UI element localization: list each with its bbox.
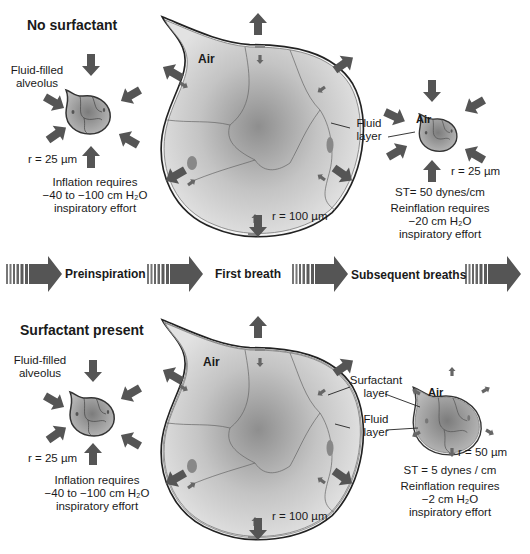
label-line: layer	[346, 387, 406, 400]
req-line: Inflation requires	[30, 176, 160, 189]
label-line: Fluid-filled	[2, 354, 78, 367]
req-line: −20 cm H₂O	[370, 215, 510, 228]
label-line: alveolus	[2, 77, 72, 90]
bottom-small-alveolus	[70, 392, 114, 436]
fluid-layer-label-top: Fluid layer	[351, 117, 387, 143]
radius-label-top-small: r = 25 µm	[28, 153, 77, 166]
top-small-alveolus	[66, 90, 110, 134]
fluid-layer-label-bottom: Fluid layer	[356, 413, 396, 439]
req-line: −40 to −100 cm H₂O	[32, 487, 162, 500]
req-line: −40 to −100 cm H₂O	[30, 189, 160, 202]
label-line: alveolus	[2, 367, 78, 380]
req-line: Inflation requires	[32, 474, 162, 487]
bottom-right-alveolus	[413, 387, 481, 455]
radius-label-bottom-right: r = 50 µm	[458, 446, 507, 459]
panel-title-surfactant-present: Surfactant present	[20, 322, 144, 338]
surface-tension: ST= 50 dynes/cm	[370, 186, 510, 199]
inflation-requirement-top: Inflation requires −40 to −100 cm H₂O in…	[30, 176, 160, 215]
surface-tension: ST = 5 dynes / cm	[385, 464, 515, 477]
radius-label-bottom-large: r = 100 µm	[272, 510, 328, 523]
bottom-large-alveolus	[161, 320, 363, 540]
radius-label-top-right: r = 25 µm	[451, 165, 500, 178]
req-line: inspiratory effort	[370, 228, 510, 241]
stage-subsequent-breaths: Subsequent breaths	[351, 268, 466, 282]
reinflation-requirement-bottom: ST = 5 dynes / cm Reinflation requires −…	[385, 464, 515, 519]
req-line: Reinflation requires	[385, 480, 515, 493]
fluid-filled-label-top: Fluid-filled alveolus	[2, 64, 72, 90]
air-label-top-right: Air	[416, 113, 431, 125]
req-line: inspiratory effort	[385, 506, 515, 519]
air-label-top-large: Air	[198, 52, 215, 66]
req-line: Reinflation requires	[370, 202, 510, 215]
label-line: Surfactant	[346, 374, 406, 387]
req-line: −2 cm H₂O	[385, 493, 515, 506]
label-line: layer	[351, 130, 387, 143]
label-line: Fluid	[356, 413, 396, 426]
radius-label-top-large: r = 100 µm	[272, 210, 328, 223]
surfactant-layer-label: Surfactant layer	[346, 374, 406, 400]
inflation-requirement-bottom: Inflation requires −40 to −100 cm H₂O in…	[32, 474, 162, 513]
stage-first-breath: First breath	[215, 267, 281, 281]
label-line: Fluid-filled	[2, 64, 72, 77]
radius-label-bottom-small: r = 25 µm	[28, 452, 77, 465]
top-large-alveolus	[161, 17, 363, 237]
panel-title-no-surfactant: No surfactant	[27, 17, 117, 33]
req-line: inspiratory effort	[32, 500, 162, 513]
label-line: layer	[356, 426, 396, 439]
fluid-filled-label-bottom: Fluid-filled alveolus	[2, 354, 78, 380]
stage-preinspiration: Preinspiration	[65, 267, 146, 281]
reinflation-requirement-top: ST= 50 dynes/cm Reinflation requires −20…	[370, 186, 510, 241]
air-label-bottom-large: Air	[203, 355, 220, 369]
label-line: Fluid	[351, 117, 387, 130]
air-label-bottom-right: Air	[428, 386, 443, 398]
req-line: inspiratory effort	[30, 202, 160, 215]
